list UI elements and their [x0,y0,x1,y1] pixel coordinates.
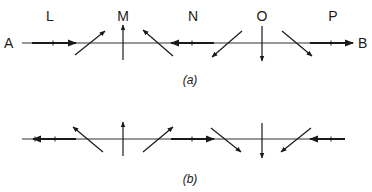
arrow-a-N-left-icon [171,41,214,46]
arrow-b-NO-down-right-icon [211,128,241,152]
point-label-L: L [46,9,54,23]
arrow-b-P-left-icon [310,137,345,142]
arrow-b-LM-up-left-icon [73,127,103,152]
panel-b [22,122,345,158]
arrow-b-N-right-icon [171,137,214,142]
end-label-B: B [358,36,367,50]
point-label-N: N [188,9,198,23]
point-label-M: M [117,9,129,23]
end-label-A: A [4,36,13,50]
panel-a [22,25,353,61]
arrow-a-L-right-icon [32,41,76,46]
arrow-a-NO-down-left-icon [212,31,242,57]
point-label-P: P [328,9,337,23]
arrow-b-MN-up-right-icon [143,127,173,152]
arrow-a-P-right-icon [310,41,353,46]
point-label-O: O [257,9,268,23]
diagram-drawing [0,0,372,192]
arrow-b-OP-down-left-icon [281,128,311,152]
arrow-b-L-left-icon [33,137,76,142]
arrow-a-OP-down-right-icon [282,31,312,56]
polarization-diagram: L M N O P A B (a) (b) [0,0,372,192]
caption-a: (a) [183,73,198,87]
caption-b: (b) [183,172,198,186]
